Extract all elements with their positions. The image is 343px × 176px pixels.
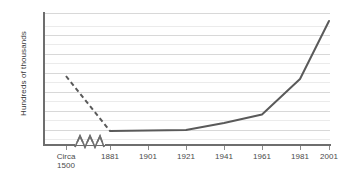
series-recorded-solid: [110, 21, 329, 131]
chart-container: Hundreds of thousands 10 9 8 6 4 2 0: [0, 0, 343, 176]
x-axis-break-mask: [75, 142, 105, 145]
series-layer: [0, 0, 343, 176]
series-estimated-dashed: [66, 76, 110, 131]
x-axis-break-zigzag-top: [75, 136, 104, 147]
